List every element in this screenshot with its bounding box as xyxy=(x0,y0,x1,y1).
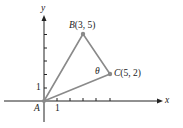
angle-theta-label: θ xyxy=(95,67,100,77)
x-axis-label: x xyxy=(165,96,169,106)
point-b-coords: (3, 5) xyxy=(75,20,96,30)
segment-ab xyxy=(44,34,83,101)
segment-ac xyxy=(44,74,110,101)
x-axis-arrow-icon xyxy=(157,99,163,104)
x-tick-label-1: 1 xyxy=(55,104,60,114)
y-tick-label-1: 1 xyxy=(36,83,41,93)
point-c xyxy=(108,72,112,76)
point-b xyxy=(81,32,85,36)
point-b-label: B(3, 5) xyxy=(69,21,95,31)
origin-label-a: A xyxy=(34,104,40,114)
point-c-coords: (5, 2) xyxy=(120,68,141,78)
point-a xyxy=(42,99,46,103)
y-axis-label: y xyxy=(41,4,45,14)
triangle-abc xyxy=(44,34,110,101)
point-c-label: C(5, 2) xyxy=(114,69,141,79)
y-axis-arrow-icon xyxy=(42,15,47,21)
